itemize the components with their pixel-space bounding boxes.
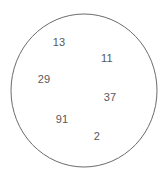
set-boundary-circle xyxy=(0,0,166,178)
set-element-4: 37 xyxy=(104,92,117,103)
diagram-canvas: 13 11 29 37 91 2 xyxy=(0,0,166,178)
set-element-2: 11 xyxy=(101,53,113,64)
circle-outline xyxy=(11,14,157,167)
set-element-5: 91 xyxy=(56,114,69,125)
set-element-6: 2 xyxy=(94,131,100,142)
set-element-1: 13 xyxy=(53,37,66,48)
set-element-3: 29 xyxy=(38,74,51,85)
